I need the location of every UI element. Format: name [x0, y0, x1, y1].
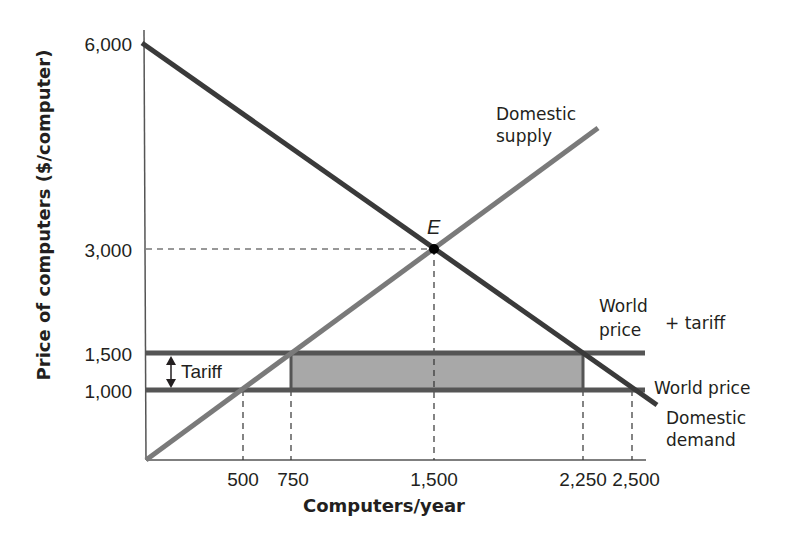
y-axis: [144, 30, 146, 460]
y-axis-title: Price of computers ($/computer): [33, 50, 54, 381]
x-tick-1500: 1,500: [410, 469, 458, 490]
demand-label-line1: Domestic: [666, 408, 746, 428]
x-axis-title: Computers/year: [303, 495, 465, 516]
y-tick-1000: 1,000: [84, 381, 132, 402]
x-tick-2250: 2,250: [559, 469, 607, 490]
world-price-tariff-label-plus: + tariff: [665, 313, 726, 333]
tariff-shaded-region: [291, 353, 583, 390]
y-tick-3000: 3,000: [84, 240, 132, 261]
tariff-double-arrow-icon: [166, 356, 176, 388]
y-tick-6000: 6,000: [84, 34, 132, 55]
x-tick-2500: 2,500: [612, 469, 660, 490]
supply-label-line2: supply: [496, 126, 552, 146]
x-tick-750: 750: [277, 469, 309, 490]
x-tick-500: 500: [227, 469, 259, 490]
world-price-tariff-label-line2: price: [599, 320, 641, 340]
y-tick-1500: 1,500: [84, 344, 132, 365]
demand-label-line2: demand: [666, 430, 736, 450]
equilibrium-label: E: [427, 216, 441, 238]
tariff-label: Tariff: [181, 361, 223, 382]
tariff-supply-demand-chart: E Tariff 6,000 3,000 1,500 1,000 500 750…: [0, 0, 797, 547]
world-price-tariff-label-line1: World: [599, 296, 648, 316]
domestic-supply-line: [146, 128, 598, 460]
supply-label-line1: Domestic: [496, 104, 576, 124]
world-price-label: World price: [654, 378, 750, 398]
equilibrium-point: [429, 244, 439, 254]
